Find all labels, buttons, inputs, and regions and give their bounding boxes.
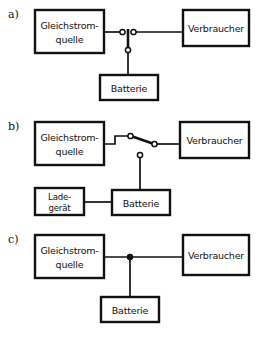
box-load-label-c: Verbraucher [188, 250, 244, 261]
box-load-label-b: Verbraucher [186, 135, 242, 146]
panel-a: a) Gleichstrom- quelle Verbraucher B [0, 0, 259, 112]
box-source-label-line1-a: Gleichstrom- [40, 20, 98, 31]
box-battery-label-a: Batterie [111, 83, 148, 94]
circuit-diagram-c: Gleichstrom- quelle Verbraucher Batterie [0, 225, 259, 337]
terminal-left-a[interactable] [120, 29, 125, 34]
terminal-pivot-b[interactable] [128, 133, 133, 138]
junction-dot-c [127, 254, 133, 260]
box-battery-label-c: Batterie [112, 305, 149, 316]
box-source-label-line2-b: quelle [56, 146, 84, 157]
terminal-right-a[interactable] [131, 29, 136, 34]
panel-c: c) Gleichstrom- quelle Verbraucher Batte… [0, 225, 259, 337]
box-source-a[interactable] [35, 10, 104, 53]
box-battery-label-b: Batterie [123, 198, 160, 209]
box-source-label-line2-c: quelle [56, 259, 84, 270]
terminal-load-b[interactable] [152, 141, 157, 146]
panel-b: b) Gleichstrom- quelle Verbraucher [0, 112, 259, 225]
terminal-battery-b[interactable] [137, 152, 142, 157]
circuit-diagram-a: Gleichstrom- quelle Verbraucher Batterie [0, 0, 259, 113]
wire-source-to-switch-b [104, 136, 130, 144]
switch-blade-b[interactable] [131, 136, 154, 144]
box-charger-label-line1-b: Lade- [48, 192, 71, 202]
box-source-label-line1-b: Gleichstrom- [40, 132, 98, 143]
box-load-label-a: Verbraucher [188, 23, 244, 34]
box-source-b[interactable] [35, 122, 104, 165]
box-source-label-line2-a: quelle [56, 34, 84, 45]
box-source-label-line1-c: Gleichstrom- [40, 245, 98, 256]
box-source-c[interactable] [35, 235, 104, 278]
terminal-pivot-a[interactable] [125, 47, 130, 52]
box-charger-label-line2-b: gerät [49, 203, 72, 213]
circuit-diagram-b: Gleichstrom- quelle Verbraucher Lade- ge… [0, 112, 259, 225]
